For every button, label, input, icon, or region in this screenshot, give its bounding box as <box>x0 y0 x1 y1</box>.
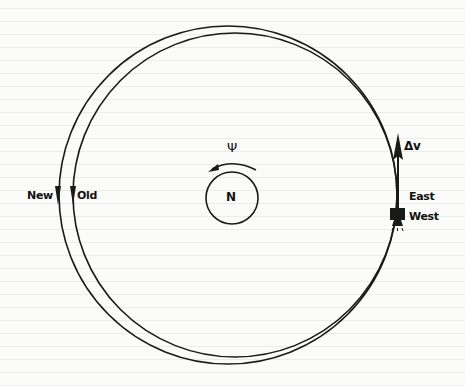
satellite-body-icon <box>390 208 405 220</box>
old-orbit-label: Old <box>77 190 97 201</box>
rotation-arrowhead-icon <box>208 164 219 172</box>
rotation-symbol: Ψ <box>227 141 237 154</box>
new-orbit-direction-arrow-icon <box>55 186 61 205</box>
delta-v-arrowhead-icon <box>393 133 403 160</box>
east-label: East <box>409 191 435 202</box>
thruster-nozzle-icon <box>392 220 403 226</box>
delta-v-label: Δv <box>404 140 421 152</box>
new-orbit-label: New <box>27 190 53 201</box>
earth-label: N <box>226 191 236 203</box>
west-label: West <box>409 211 439 222</box>
old-orbit-direction-arrow-icon <box>70 186 76 205</box>
